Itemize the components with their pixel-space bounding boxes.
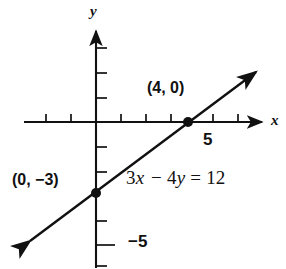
y-axis-label: y (90, 4, 97, 19)
x-axis-ticks (46, 114, 238, 122)
equation-variable-y: y (177, 167, 186, 188)
y-axis-ticks (96, 48, 115, 266)
equation-minus-sign: − (151, 167, 162, 188)
x-axis-label: x (271, 113, 279, 128)
equation-variable-x: x (136, 167, 145, 188)
x-intercept-point (183, 117, 193, 127)
y-tick-label-negative-5: −5 (128, 233, 147, 250)
equation-line (30, 72, 256, 241)
coordinate-plane-graphic (0, 0, 286, 269)
equation-coef-1: 3 (126, 167, 136, 188)
x-intercept-annotation: (4, 0) (147, 80, 184, 96)
equation-coef-2: 4 (167, 167, 177, 188)
y-intercept-point (91, 188, 101, 198)
equation-annotation: 3x − 4y = 12 (126, 168, 226, 187)
equation-right-hand-side: 12 (206, 167, 225, 188)
x-tick-label-5: 5 (203, 131, 212, 148)
graph-figure: y x 5 −5 (4, 0) (0, −3) 3x − 4y = 12 (0, 0, 286, 269)
equation-equals-sign: = (190, 167, 201, 188)
y-intercept-annotation: (0, −3) (12, 172, 59, 188)
